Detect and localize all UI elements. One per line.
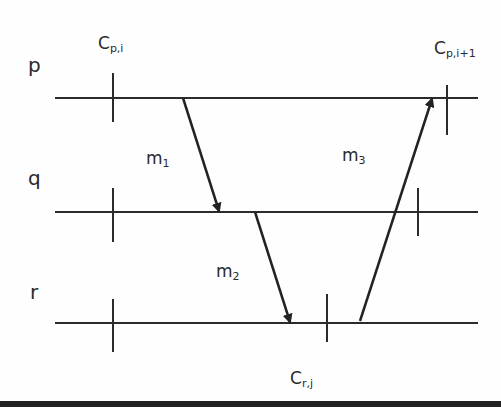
message-label-m2: m2 (216, 263, 240, 282)
message-arrow-m1 (183, 98, 219, 211)
process-label-q: q (28, 168, 41, 188)
process-label-p: p (28, 55, 41, 75)
checkpoint-label-p-i: Cp,i (98, 35, 123, 54)
checkpoint-label-sub: r,j (302, 377, 313, 390)
message-label-m1: m1 (146, 150, 170, 169)
diagram-canvas: p q r Cp,i Cp,i+1 Cr,j m1 m2 m3 (0, 0, 501, 407)
checkpoint-label-main: C (434, 38, 446, 58)
message-label-sub: 3 (359, 154, 366, 167)
checkpoint-label-r-j: Cr,j (290, 370, 313, 389)
message-arrow-m2 (255, 212, 290, 322)
message-label-main: m (342, 145, 359, 165)
diagram-svg (0, 0, 501, 407)
message-label-m3: m3 (342, 147, 366, 166)
checkpoint-label-main: C (290, 368, 302, 388)
bottom-edge-bar (0, 401, 501, 407)
checkpoint-label-sub: p,i (110, 42, 124, 55)
message-label-main: m (146, 148, 163, 168)
message-label-sub: 2 (233, 270, 240, 283)
process-label-r: r (30, 282, 38, 302)
message-arrow-m3 (360, 99, 432, 321)
checkpoint-label-sub: p,i+1 (446, 47, 476, 60)
checkpoint-label-p-i1: Cp,i+1 (434, 40, 476, 59)
message-label-main: m (216, 261, 233, 281)
message-label-sub: 1 (163, 157, 170, 170)
checkpoint-label-main: C (98, 33, 110, 53)
